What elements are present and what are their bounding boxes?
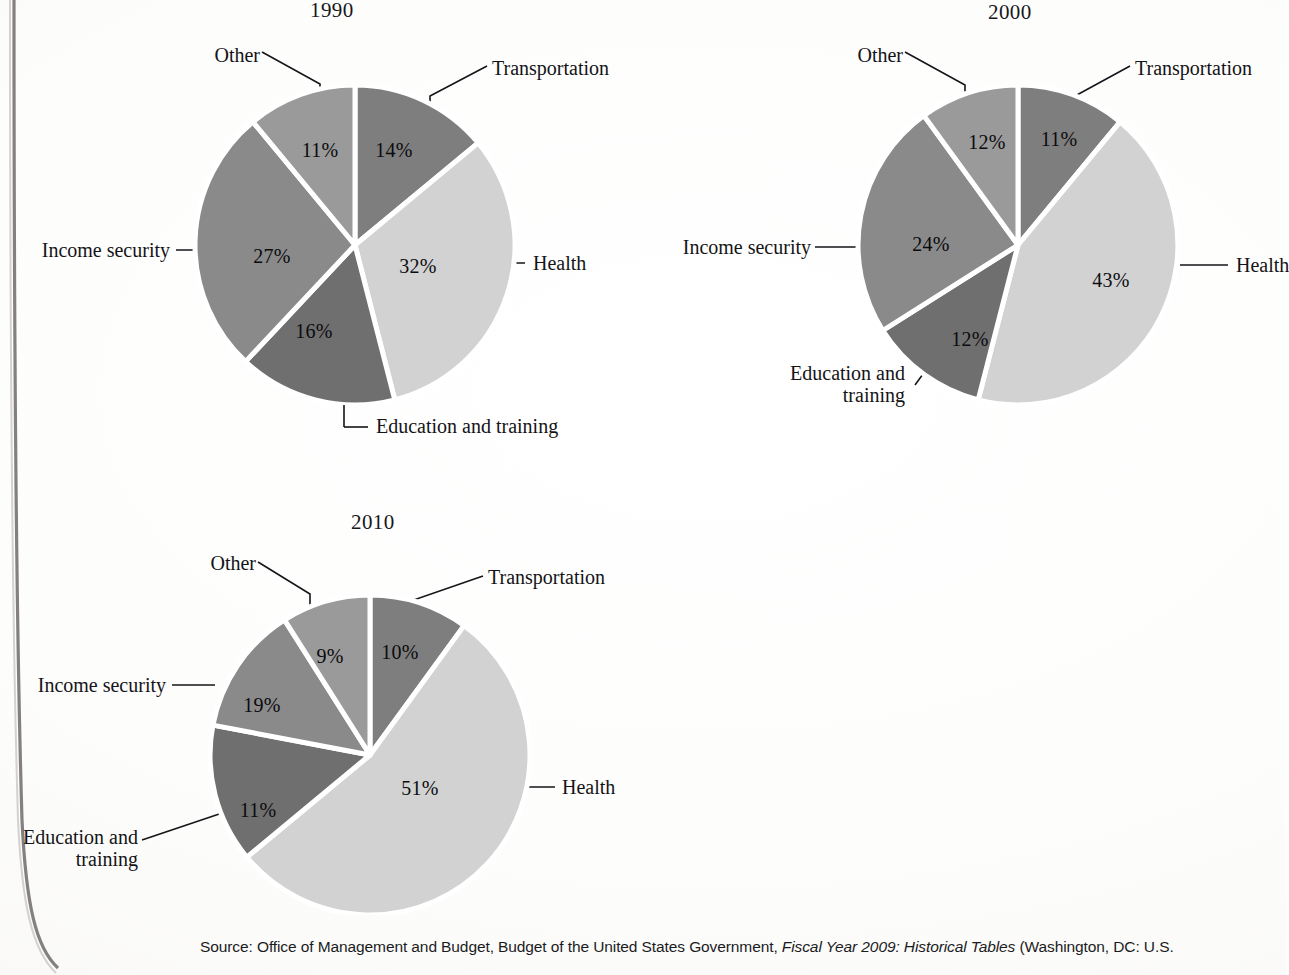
pie-chart-2010: 2010 Other Transportation xyxy=(0,510,643,975)
label-health-2000: Health xyxy=(1236,254,1289,276)
source-suffix: (Washington, DC: U.S. xyxy=(1015,938,1173,955)
value-transportation-2000: 11% xyxy=(1041,128,1078,151)
value-income-security-2000: 24% xyxy=(912,233,949,256)
label-health-1990: Health xyxy=(533,252,586,274)
value-other-2000: 12% xyxy=(968,131,1005,154)
source-caption: Source: Office of Management and Budget,… xyxy=(200,938,1286,956)
chart-title-2000: 2000 xyxy=(988,0,1032,25)
value-income-security-1990: 27% xyxy=(253,245,290,268)
label-education-line1: Education and xyxy=(790,362,905,384)
pie-2000 xyxy=(853,85,1183,405)
label-education-line2-2010: training xyxy=(76,848,138,870)
label-education-1990: Education and training xyxy=(376,415,558,437)
label-transportation-1990: Transportation xyxy=(492,57,609,79)
value-education-2010: 11% xyxy=(240,799,277,822)
pie-1990 xyxy=(190,85,520,405)
label-income-security-2010: Income security xyxy=(18,674,166,696)
value-transportation-1990: 14% xyxy=(375,139,412,162)
label-other-2000: Other xyxy=(763,44,903,66)
label-education-2000: Education and training xyxy=(733,362,905,407)
pie-chart-1990: 1990 xyxy=(0,0,643,470)
value-other-1990: 11% xyxy=(302,139,339,162)
label-education-2010: Education and training xyxy=(0,826,138,871)
value-health-1990: 32% xyxy=(399,255,436,278)
source-prefix: Source: Office of Management and Budget,… xyxy=(200,938,782,955)
label-transportation-2000: Transportation xyxy=(1135,57,1252,79)
value-health-2010: 51% xyxy=(401,777,438,800)
pie-2010 xyxy=(205,595,535,915)
value-health-2000: 43% xyxy=(1092,269,1129,292)
label-income-security-1990: Income security xyxy=(22,239,170,261)
chart-title-1990: 1990 xyxy=(310,0,354,23)
label-education-line2: training xyxy=(843,384,905,406)
value-education-2000: 12% xyxy=(951,328,988,351)
label-other-1990: Other xyxy=(120,44,260,66)
label-education-line1-2010: Education and xyxy=(23,826,138,848)
source-italic-title: Fiscal Year 2009: Historical Tables xyxy=(782,938,1015,955)
label-other-2010: Other xyxy=(120,552,256,574)
value-education-1990: 16% xyxy=(295,320,332,343)
chart-title-2010: 2010 xyxy=(351,510,395,535)
label-transportation-2010: Transportation xyxy=(488,566,605,588)
value-other-2010: 9% xyxy=(316,645,343,668)
pie-chart-2000: 2000 Other Transportati xyxy=(643,0,1286,470)
label-health-2010: Health xyxy=(562,776,615,798)
value-transportation-2010: 10% xyxy=(381,641,418,664)
value-income-security-2010: 19% xyxy=(243,694,280,717)
label-income-security-2000: Income security xyxy=(663,236,811,258)
